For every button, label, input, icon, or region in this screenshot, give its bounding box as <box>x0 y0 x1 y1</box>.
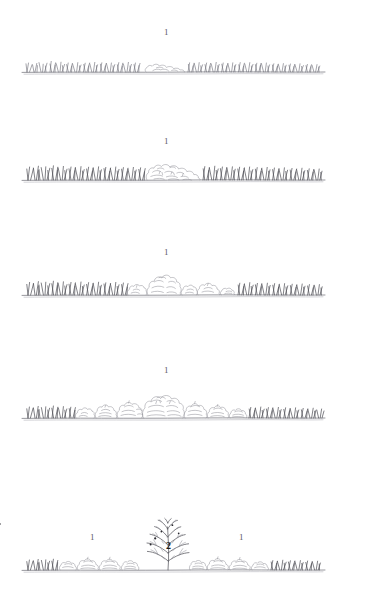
ground-line-3 <box>22 295 325 297</box>
panel-2-drawing <box>0 110 389 220</box>
stratum-label-5-left: 1 <box>90 533 95 542</box>
grass-tufts-left-1 <box>26 61 140 72</box>
grass-tufts-left-3 <box>27 281 128 295</box>
grass-tufts-right-3 <box>238 283 322 295</box>
grass-tufts-right-4 <box>249 407 324 418</box>
panel-3-drawing <box>0 220 389 340</box>
ground-line-2 <box>22 180 325 182</box>
grass-tufts-left-5 <box>27 559 58 570</box>
shrub-cluster-center-2 <box>146 165 200 180</box>
stratum-label-5-tree: 2 <box>166 541 171 551</box>
grass-tufts-right-2 <box>203 166 322 180</box>
stratum-label-1: 1 <box>164 28 169 37</box>
ground-line-4 <box>22 418 325 420</box>
stratum-label-4: 1 <box>164 366 169 375</box>
stratum-label-3: 1 <box>164 248 169 257</box>
vegetation-panel-2: 1 <box>0 110 389 220</box>
shrub-row-left-5 <box>59 557 139 570</box>
shrub-row-3 <box>127 275 234 295</box>
grass-tufts-right-1 <box>188 62 320 72</box>
figure-sheet: 1 <box>0 0 389 615</box>
vegetation-panel-3: 1 <box>0 220 389 340</box>
panel-4-drawing <box>0 340 389 465</box>
panel-5-drawing <box>0 465 389 615</box>
panel-1-drawing <box>0 0 389 110</box>
grass-tufts-left-4 <box>27 406 76 418</box>
vegetation-panel-1: 1 <box>0 0 389 110</box>
stratum-label-2: 1 <box>164 137 169 146</box>
ground-line-1 <box>22 72 325 74</box>
stratum-label-5-right: 1 <box>239 533 244 542</box>
grass-tufts-left-2 <box>27 166 145 180</box>
grass-tufts-right-5 <box>271 560 320 570</box>
shrub-row-right-5 <box>189 557 268 570</box>
low-shrub-center-1 <box>145 64 184 72</box>
vegetation-panel-4: 1 <box>0 340 389 465</box>
shrub-canopy-4 <box>75 395 247 418</box>
vegetation-panel-5: 1 2 1 <box>0 465 389 615</box>
